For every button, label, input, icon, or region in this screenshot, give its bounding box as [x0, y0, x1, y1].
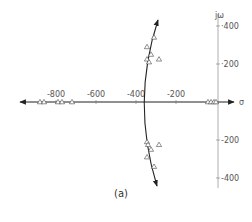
- x-tick-label: -600: [87, 90, 105, 99]
- y-tick-label: -400: [221, 174, 239, 183]
- triangle-marker-icon: [151, 35, 156, 39]
- root-locus-plot: jω ·400·200-200-400 σ -800-600-400-200 (…: [0, 0, 252, 222]
- triangle-marker-icon: [151, 164, 156, 168]
- imaginary-axis-label: jω: [214, 11, 224, 20]
- x-tick-label: -400: [127, 90, 145, 99]
- x-tick-label: -800: [47, 90, 65, 99]
- y-tick-label: -200: [221, 136, 239, 145]
- x-tick-label: -200: [167, 90, 185, 99]
- real-axis: σ -800-600-400-200: [20, 90, 244, 107]
- real-axis-label: σ: [239, 98, 244, 107]
- y-tick-label: ·200: [221, 60, 239, 69]
- y-tick-label: ·400: [221, 22, 239, 31]
- triangle-marker-icon: [156, 57, 161, 61]
- imaginary-axis: jω ·400·200-200-400: [214, 11, 239, 188]
- figure-caption: (a): [114, 188, 128, 199]
- triangle-marker-icon: [144, 44, 149, 48]
- triangle-marker-icon: [156, 142, 161, 146]
- triangle-marker-icon: [148, 147, 153, 151]
